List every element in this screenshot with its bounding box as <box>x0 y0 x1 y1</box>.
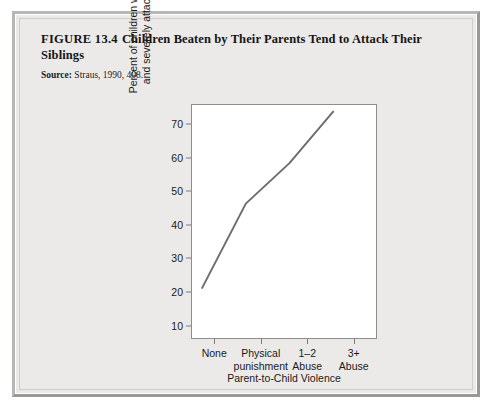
y-axis-title-line2: and severely attacked a sibling <box>140 0 153 84</box>
data-series-line <box>15 14 477 394</box>
x-axis-title: Parent-to-Child Violence <box>191 372 377 384</box>
y-axis-title-line1: Percent of children who repeatedly <box>127 0 140 93</box>
figure-outer-frame: FIGURE 13.4Children Beaten by Their Pare… <box>12 11 480 397</box>
y-axis-title: Percent of children who repeatedly and s… <box>127 0 153 130</box>
line-chart: 10203040506070 NonePhysicalpunishment1–2… <box>15 14 477 394</box>
